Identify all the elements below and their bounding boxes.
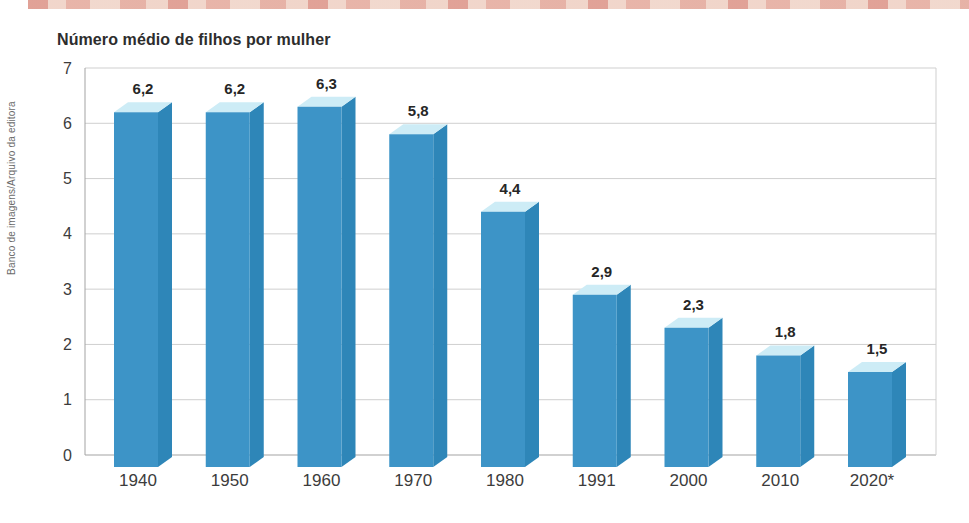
bar-value-label: 1,8	[775, 323, 796, 340]
bar-chart-canvas: 012345676,219406,219506,319605,819704,41…	[0, 0, 969, 523]
bar	[206, 112, 250, 467]
bar-value-label: 6,3	[316, 75, 337, 92]
y-tick-label: 0	[63, 447, 72, 464]
bar	[298, 107, 342, 467]
x-tick-label: 1950	[211, 471, 249, 490]
y-tick-label: 2	[63, 336, 72, 353]
x-tick-label: 1970	[394, 471, 432, 490]
bar-side-face	[617, 285, 631, 467]
y-tick-label: 6	[63, 115, 72, 132]
x-tick-label: 2000	[670, 471, 708, 490]
y-tick-label: 1	[63, 391, 72, 408]
x-tick-label: 2020*	[850, 471, 895, 490]
bar-side-face	[250, 102, 264, 467]
bar-value-label: 2,9	[591, 263, 612, 280]
y-tick-label: 5	[63, 170, 72, 187]
x-tick-label: 1960	[303, 471, 341, 490]
bar-side-face	[433, 124, 447, 467]
bar-side-face	[892, 362, 906, 467]
x-tick-label: 1940	[119, 471, 157, 490]
bar-side-face	[342, 97, 356, 467]
y-tick-label: 7	[63, 60, 72, 77]
bar	[848, 372, 892, 467]
bar	[665, 328, 709, 467]
bar-value-label: 4,4	[500, 180, 522, 197]
bar-value-label: 2,3	[683, 296, 704, 313]
bar-side-face	[800, 345, 814, 467]
bar-side-face	[525, 202, 539, 467]
bar-value-label: 6,2	[133, 80, 154, 97]
bar	[389, 134, 433, 467]
bar	[756, 355, 800, 467]
bar-value-label: 1,5	[867, 340, 888, 357]
textbook-chart-page: Banco de imagens/Arquivo da editora Núme…	[0, 0, 969, 523]
bar-side-face	[158, 102, 172, 467]
bar-side-face	[709, 318, 723, 467]
x-tick-label: 1991	[578, 471, 616, 490]
x-tick-label: 2010	[761, 471, 799, 490]
bar-value-label: 5,8	[408, 102, 429, 119]
x-tick-label: 1980	[486, 471, 524, 490]
bar	[573, 295, 617, 467]
y-tick-label: 3	[63, 281, 72, 298]
bar-value-label: 6,2	[224, 80, 245, 97]
bar	[114, 112, 158, 467]
y-tick-label: 4	[63, 225, 72, 242]
bar	[481, 212, 525, 467]
